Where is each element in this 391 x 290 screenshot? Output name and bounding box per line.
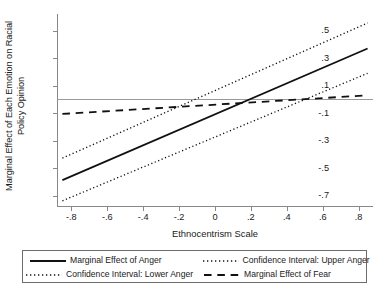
- y-tick-label: -.1: [318, 109, 329, 118]
- y-tick-label: .3: [321, 54, 329, 63]
- marginal-effects-chart: Marginal Effect of Each Emotion on Racia…: [0, 0, 391, 290]
- legend-swatch-dotted-icon: [25, 270, 63, 280]
- x-tick-mark: [107, 207, 108, 211]
- y-tick-label: -.7: [318, 191, 329, 200]
- x-tick-label: -.8: [66, 213, 77, 222]
- y-tick-label: -.3: [318, 136, 329, 145]
- y-axis-title-line-1: Marginal Effect of Each Emotion on Racia…: [4, 0, 16, 212]
- x-tick-label: .2: [247, 213, 255, 222]
- legend-entry-marginal-effect-of-fear: Marginal Effect of Fear: [203, 267, 331, 282]
- legend-row: Confidence Interval: Lower Anger Margina…: [23, 267, 366, 282]
- legend-swatch-dashed-icon: [203, 270, 241, 280]
- legend-label: Marginal Effect of Fear: [241, 270, 331, 279]
- x-tick-mark: [71, 207, 72, 211]
- legend-row: Marginal Effect of Anger Confidence Inte…: [23, 253, 366, 268]
- y-tick-label: .5: [321, 26, 329, 35]
- legend-label: Confidence Interval: Lower Anger: [63, 270, 193, 279]
- x-tick-mark: [143, 207, 144, 211]
- y-axis-title-line-2: Policy Opinion: [15, 0, 27, 212]
- x-tick-label: .8: [355, 213, 363, 222]
- x-tick-label: 0: [212, 213, 217, 222]
- y-tick-label: .1: [321, 81, 329, 90]
- x-tick-mark: [179, 207, 180, 211]
- x-tick-mark: [287, 207, 288, 211]
- legend-label: Marginal Effect of Anger: [67, 256, 162, 265]
- x-tick-label: -.6: [102, 213, 113, 222]
- y-axis-title: Marginal Effect of Each Emotion on Racia…: [0, 0, 30, 212]
- x-tick-mark: [323, 207, 324, 211]
- x-tick-label: .4: [283, 213, 291, 222]
- x-tick-label: -.2: [174, 213, 185, 222]
- legend-label: Confidence Interval: Upper Anger: [240, 256, 370, 265]
- legend-entry-marginal-effect-of-anger: Marginal Effect of Anger: [29, 253, 162, 268]
- x-tick-mark: [215, 207, 216, 211]
- legend-entry-confidence-interval-lower-anger: Confidence Interval: Lower Anger: [25, 267, 193, 282]
- legend-entry-confidence-interval-upper-anger: Confidence Interval: Upper Anger: [202, 253, 370, 268]
- x-tick-label: -.4: [138, 213, 149, 222]
- legend-swatch-solid-icon: [29, 256, 67, 266]
- y-tick-label: -.5: [318, 164, 329, 173]
- chart-legend: Marginal Effect of Anger Confidence Inte…: [22, 250, 367, 283]
- x-axis-title: Ethnocentrism Scale: [57, 228, 373, 239]
- x-tick-mark: [359, 207, 360, 211]
- x-tick-mark: [251, 207, 252, 211]
- legend-swatch-dotted-icon: [202, 256, 240, 266]
- x-tick-label: .6: [319, 213, 327, 222]
